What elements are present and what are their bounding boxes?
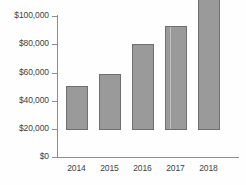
y-axis-label-100000: $100,000 xyxy=(14,11,49,20)
x-axis-label-2015: 2015 xyxy=(93,163,126,173)
x-axis-label-2017: 2017 xyxy=(159,163,192,173)
bar-2017[interactable] xyxy=(165,26,187,130)
y-axis-label-80000: $80,000 xyxy=(19,39,49,48)
bar-slot-2014 xyxy=(60,0,93,130)
scan-artifact-streak xyxy=(170,27,171,129)
bar-slot-2015 xyxy=(93,0,126,130)
x-axis-label-2014: 2014 xyxy=(60,163,93,173)
bar-2016[interactable] xyxy=(132,44,154,130)
y-axis-label-0: $0 xyxy=(40,152,49,161)
bar-2018[interactable] xyxy=(198,0,220,130)
bar-series xyxy=(57,0,239,158)
bar-chart: $100,000 $80,000 $60,000 $40,000 $20,000… xyxy=(0,0,246,185)
x-axis-label-2018: 2018 xyxy=(192,163,225,173)
bar-2015[interactable] xyxy=(99,74,121,130)
y-axis-label-40000: $40,000 xyxy=(19,96,49,105)
y-axis-label-20000: $20,000 xyxy=(19,124,49,133)
bar-2014[interactable] xyxy=(66,86,88,130)
y-axis-label-60000: $60,000 xyxy=(19,68,49,77)
bar-slot-2016 xyxy=(126,0,159,130)
bar-slot-2018 xyxy=(192,0,225,130)
bar-slot-2017 xyxy=(159,0,192,130)
x-axis-label-2016: 2016 xyxy=(126,163,159,173)
